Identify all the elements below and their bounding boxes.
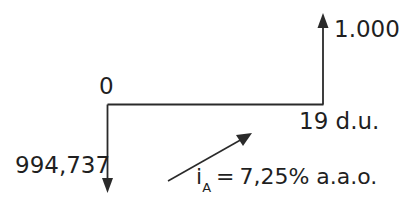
interest-subscript: A [202, 180, 211, 195]
outflow-arrow-head [102, 178, 113, 193]
inflow-amount-label: 1.000 [334, 18, 400, 41]
cash-flow-diagram: 1.000 0 19 d.u. 994,737 iA=7,25% a.a.o. [0, 0, 407, 203]
interest-rate-pointer-head [236, 133, 252, 146]
interest-equals-sign: = [216, 164, 234, 189]
time-zero-label: 0 [99, 75, 114, 98]
period-end-label: 19 d.u. [299, 110, 379, 133]
interest-rate-label: iA=7,25% a.a.o. [196, 166, 377, 191]
interest-rate-value: 7,25% a.a.o. [239, 164, 377, 189]
outflow-amount-label: 994,737 [15, 154, 110, 177]
inflow-arrow-head [318, 13, 329, 28]
